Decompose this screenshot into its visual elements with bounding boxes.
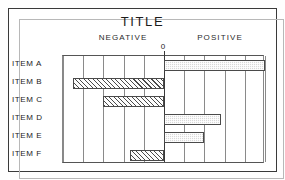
axis-header-positive: POSITIVE xyxy=(175,33,265,42)
zero-tick-label: 0 xyxy=(155,42,171,51)
bar-row xyxy=(63,128,263,146)
category-label: ITEM A xyxy=(12,59,60,68)
category-label: ITEM C xyxy=(12,95,60,104)
bar-row xyxy=(63,146,263,164)
category-label: ITEM F xyxy=(12,149,60,158)
plot-area xyxy=(62,55,264,163)
bar xyxy=(103,96,164,107)
axis-header-negative: NEGATIVE xyxy=(78,33,168,42)
bar xyxy=(164,60,265,71)
bar-row xyxy=(63,110,263,128)
bar xyxy=(73,78,164,89)
category-label: ITEM B xyxy=(12,77,60,86)
bar xyxy=(164,114,221,125)
category-label: ITEM E xyxy=(12,131,60,140)
gridline xyxy=(265,56,266,162)
bar xyxy=(130,150,164,161)
bar-row xyxy=(63,92,263,110)
bar xyxy=(164,132,204,143)
bar-row xyxy=(63,56,263,74)
bar-row xyxy=(63,74,263,92)
chart-figure: TITLE NEGATIVE POSITIVE 0 ITEM AITEM BIT… xyxy=(0,0,285,180)
category-label: ITEM D xyxy=(12,113,60,122)
page-title: TITLE xyxy=(0,14,285,29)
